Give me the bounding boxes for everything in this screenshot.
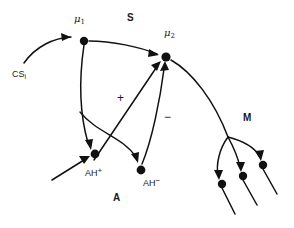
edge-mu1-to-mu2 <box>89 41 157 54</box>
node-ahplus <box>91 150 100 159</box>
node-label-ahplus: AH+ <box>85 167 102 178</box>
edge-mu2-to-m-junction <box>171 60 228 137</box>
input-label-cs-base: CS <box>12 69 25 79</box>
edge-m3-tail <box>263 169 277 194</box>
arrowhead-m-junction-to-m2 <box>236 162 245 172</box>
edge-ahplus-to-mu2 <box>94 68 156 160</box>
region-label-a: A <box>113 193 120 203</box>
node-label-ahplus-superscript: + <box>98 166 103 175</box>
edge-cs-to-mu1 <box>24 37 71 63</box>
minus-sign-label: − <box>164 111 171 123</box>
arrowhead-ahminus-to-mu2 <box>160 61 169 71</box>
node-label-ahplus-base: AH <box>85 168 98 178</box>
edge-mu1-to-ahplus <box>81 45 88 143</box>
arrowhead-mu1-to-ahminus <box>131 152 139 163</box>
node-label-mu1-subscript: 1 <box>81 18 85 26</box>
node-label-mu2-subscript: 2 <box>171 32 175 40</box>
node-m3 <box>259 161 267 169</box>
edge-m2-tail <box>243 180 257 205</box>
node-mu1 <box>80 37 88 45</box>
edge-m-junction-to-m1 <box>217 137 228 175</box>
node-label-ahminus: AH− <box>143 177 160 188</box>
region-label-s: S <box>127 13 134 23</box>
node-ahminus <box>137 166 146 175</box>
arrowhead-cs-to-mu1 <box>61 33 71 41</box>
edge-m1-tail <box>222 188 235 214</box>
input-label-cs: CSi <box>12 70 26 80</box>
node-label-ahminus-base: AH <box>143 178 156 188</box>
node-m1 <box>218 180 226 188</box>
arrowhead-m-junction-to-m3 <box>255 150 264 161</box>
region-label-m: M <box>243 113 252 123</box>
arrowhead-mu1-to-ahplus <box>85 139 93 150</box>
node-m2 <box>239 172 247 180</box>
edge-external-to-ahplus <box>52 160 84 180</box>
arrowhead-mu1-to-mu2 <box>148 49 159 57</box>
node-mu2 <box>161 52 170 61</box>
node-label-ahminus-superscript: − <box>156 176 161 185</box>
node-label-mu1: μ1 <box>74 14 85 26</box>
input-label-cs-subscript: i <box>25 73 27 80</box>
node-label-mu2: μ2 <box>164 28 175 40</box>
arrowhead-m-junction-to-m1 <box>214 170 223 180</box>
edge-mu1-to-ahminus <box>80 112 136 157</box>
plus-sign-label: + <box>117 92 124 104</box>
arrowhead-ahplus-to-mu2 <box>151 61 161 71</box>
neural-circuit-diagram: S M A μ1 μ2 AH+ AH− CSi + − <box>0 0 294 228</box>
